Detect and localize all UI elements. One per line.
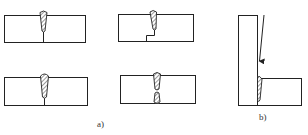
panel-butt-weld-stepped <box>119 11 194 42</box>
weld-joint-diagram: a) b) <box>0 0 308 135</box>
weld-bead-bottom <box>154 92 160 104</box>
group-b-label: b) <box>259 112 267 122</box>
panel-butt-weld-double-sided <box>121 73 196 104</box>
weld-bead-top <box>154 73 161 91</box>
group-a-label: a) <box>97 119 104 129</box>
vertical-plate <box>239 16 258 106</box>
panel-corner-t-joint <box>239 15 302 106</box>
panel-butt-weld-single <box>5 11 86 43</box>
panel-butt-weld-full-penetration <box>5 74 88 106</box>
weld-direction-arrow-icon <box>260 15 265 61</box>
horizontal-plate <box>258 79 302 106</box>
